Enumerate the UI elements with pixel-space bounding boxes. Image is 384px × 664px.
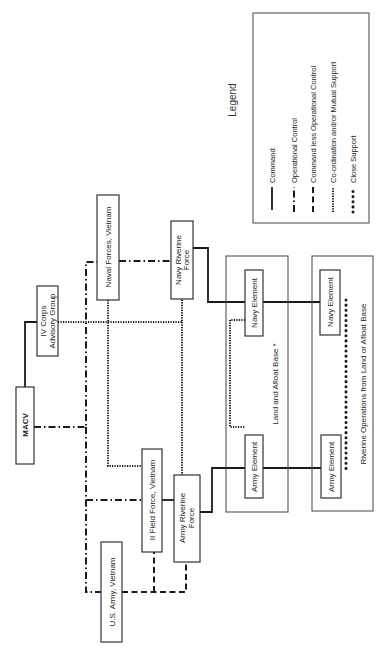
label-land-afloat-base: Land and Afloat Base * bbox=[271, 343, 280, 424]
legend-label-cmdless: Command less Operational Control bbox=[309, 66, 318, 183]
line-armyriverine-armyelements-command bbox=[200, 468, 245, 512]
node-land-navy-element-label: Navy Element bbox=[250, 277, 259, 328]
node-ivcorps-label-2: Advisory Group bbox=[48, 293, 57, 349]
line-base-elements-coord bbox=[230, 320, 245, 427]
label-riverine-operations: Riverine Operations from Land or Afloat … bbox=[359, 303, 368, 465]
node-macv-label: MACV bbox=[21, 413, 30, 437]
node-land-army-element-label: Army Element bbox=[250, 441, 259, 492]
riverine-command-diagram: MACV IV Corps Advisory Group Naval Force… bbox=[0, 0, 384, 664]
node-riverine-army-element-label: Army Element bbox=[327, 441, 336, 492]
node-navy-riverine-force: Navy Riverine Force bbox=[171, 221, 193, 299]
node-naval-forces-label: Naval Forces, Vietnam bbox=[104, 206, 113, 287]
line-opcon-spine-down bbox=[86, 427, 101, 592]
node-iiff-label: II Field Force, Vietnam bbox=[148, 460, 157, 541]
legend-label-coord: Co-ordination and/or Mutual Support bbox=[329, 61, 338, 183]
node-ivcorps-label-1: IV Corps bbox=[39, 305, 48, 336]
node-army-riverine-label-1: Army Riverine bbox=[178, 492, 187, 543]
line-ivcorps-coord bbox=[58, 299, 182, 322]
node-iv-corps-advisory-group: IV Corps Advisory Group bbox=[37, 286, 58, 356]
node-usarv-label: U.S. Army, Vietnam bbox=[108, 557, 117, 626]
legend: Legend Command Operational Control Comma… bbox=[227, 13, 369, 223]
node-naval-forces-vietnam: Naval Forces, Vietnam bbox=[97, 195, 119, 300]
legend-title: Legend bbox=[227, 83, 238, 116]
legend-label-command: Command bbox=[268, 148, 277, 183]
legend-label-opcon: Operational Control bbox=[290, 118, 299, 183]
node-ii-field-force-vietnam: II Field Force, Vietnam bbox=[142, 449, 162, 552]
line-macv-ivcorps-command bbox=[25, 322, 37, 387]
line-naval-iiff-coord bbox=[108, 300, 142, 466]
node-navy-riverine-label-2: Force bbox=[182, 249, 191, 270]
node-us-army-vietnam: U.S. Army, Vietnam bbox=[101, 542, 122, 642]
node-riverine-navy-element-label: Navy Element bbox=[326, 276, 335, 327]
group-riverine-operations: Navy Element Army Element Riverine Opera… bbox=[312, 256, 373, 511]
node-army-riverine-force: Army Riverine Force bbox=[174, 475, 200, 562]
group-land-afloat-base: Navy Element Army Element Land and Afloa… bbox=[226, 256, 288, 512]
node-macv: MACV bbox=[16, 387, 34, 464]
node-army-riverine-label-2: Force bbox=[187, 507, 196, 528]
legend-label-close-support: Close Support bbox=[349, 135, 358, 183]
